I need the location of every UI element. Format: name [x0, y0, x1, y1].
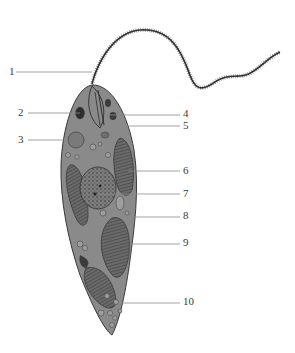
- euglena-diagram: [0, 0, 295, 353]
- label-8: 8: [183, 210, 189, 221]
- label-2: 2: [18, 107, 24, 118]
- label-5: 5: [183, 120, 189, 131]
- nucleus: [80, 167, 116, 209]
- label-3: 3: [18, 134, 24, 145]
- label-1: 1: [9, 66, 15, 77]
- label-9: 9: [183, 237, 189, 248]
- label-4: 4: [183, 108, 189, 119]
- label-10: 10: [183, 296, 194, 307]
- flagellum: [92, 30, 280, 88]
- label-6: 6: [183, 165, 189, 176]
- label-7: 7: [183, 188, 189, 199]
- paramylon-body: [68, 132, 84, 148]
